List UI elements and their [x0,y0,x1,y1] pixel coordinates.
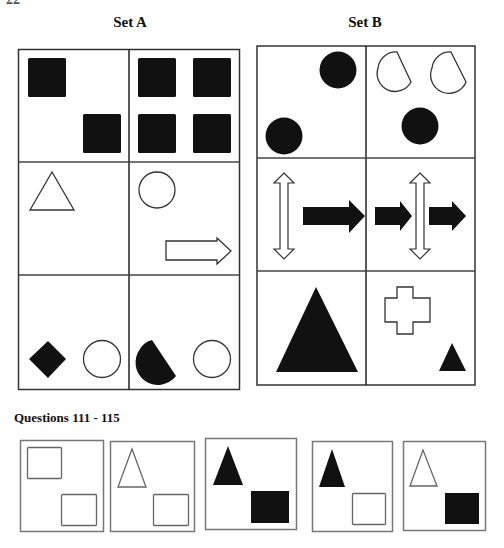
black-square-icon [83,114,121,153]
question-111-option[interactable] [21,441,104,532]
set-a-cell-3-1 [29,341,121,379]
black-square-icon [138,58,176,97]
question-115-option[interactable] [404,442,486,531]
question-112-option[interactable] [111,442,195,532]
set-a-cell-3-2 [136,340,231,385]
set-b-cell-3-1 [276,287,358,372]
white-circle-icon [139,172,175,208]
white-arrow-right-icon [166,238,231,264]
white-rectangle-icon [154,495,189,526]
black-half-circle-icon [136,340,176,385]
set-a-cell-1-2 [138,58,231,153]
white-circle-icon [84,341,121,378]
large-black-triangle-icon [276,287,358,372]
black-diamond-icon [29,341,66,378]
black-circle-icon [266,118,303,155]
set-b-cell-1-2 [377,52,466,145]
white-rectangle-icon [62,495,97,526]
black-rectangle-icon [445,493,479,524]
set-b-cell-2-1 [274,173,365,259]
black-circle-icon [320,52,357,89]
question-114-option[interactable] [313,442,393,532]
white-triangle-icon [30,172,74,210]
black-rectangle-icon [251,491,289,523]
black-arrow-right-icon [375,201,412,231]
set-a-cell-1-1 [28,58,121,153]
set-a-grid [19,50,240,390]
white-double-arrow-vertical-icon [410,173,430,259]
black-circle-icon [402,108,439,145]
small-black-triangle-icon [439,343,466,371]
white-cross-icon [385,287,430,334]
set-b-cell-1-1 [266,52,357,155]
black-square-icon [193,114,231,153]
white-half-circle-icon [431,52,466,93]
question-113-option[interactable] [206,439,297,530]
white-circle-icon [194,341,231,378]
set-b-cell-3-2 [385,287,466,371]
white-half-circle-icon [377,52,411,92]
black-square-icon [193,58,231,97]
set-b-cell-2-2 [375,173,466,259]
black-arrow-right-icon [429,201,466,231]
set-b-grid [257,46,475,385]
set-a-cell-2-1 [30,172,74,210]
set-a-cell-2-2 [139,172,231,264]
black-square-icon [28,58,66,97]
white-rectangle-icon [353,494,386,525]
white-double-arrow-vertical-icon [274,173,294,259]
black-square-icon [138,114,176,153]
white-rectangle-icon [28,448,62,479]
black-arrow-right-icon [303,200,365,233]
